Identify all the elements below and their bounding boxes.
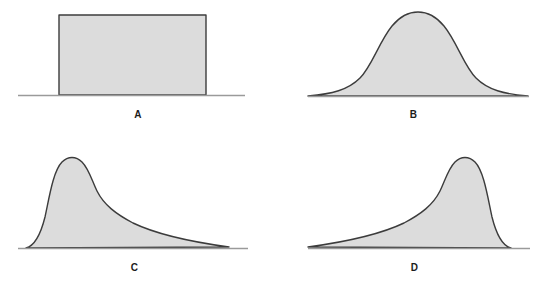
- panel-c-label: C: [0, 263, 274, 273]
- panel-c-chart: [0, 145, 274, 270]
- panel-d-chart: [275, 145, 549, 270]
- right-skewed-distribution-shape: [26, 158, 229, 249]
- panel-a: A: [0, 0, 274, 145]
- panel-d: D: [275, 145, 549, 290]
- panel-a-chart: [0, 0, 274, 125]
- left-skewed-distribution-shape: [308, 158, 511, 249]
- panel-b: B: [275, 0, 549, 145]
- uniform-distribution-shape: [59, 15, 206, 95]
- symmetric-bell-distribution-shape: [308, 12, 528, 96]
- panel-d-label: D: [275, 263, 549, 273]
- panel-b-label: B: [275, 110, 549, 120]
- panel-c: C: [0, 145, 274, 290]
- distribution-shapes-figure: A B C D: [0, 0, 549, 290]
- panel-b-chart: [275, 0, 549, 125]
- panel-a-label: A: [0, 110, 274, 120]
